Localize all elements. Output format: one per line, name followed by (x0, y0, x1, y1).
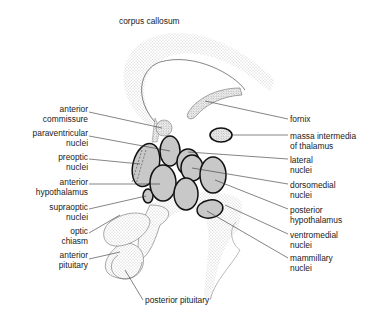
label-fornix: fornix (290, 114, 310, 124)
label-line: supraoptic (49, 202, 88, 212)
label-paraventricular-nuclei: paraventricular nuclei (33, 128, 88, 148)
label-preoptic-nuclei: preoptic nuclei (58, 152, 88, 172)
label-line: nuclei (290, 240, 338, 250)
label-line: chiasm (61, 236, 88, 246)
label-massa-intermedia: massa intermedia of thalamus (290, 131, 356, 151)
anterior-hypothalamus-shape (150, 165, 176, 201)
label-line: hypothalamus (36, 187, 88, 197)
label-line: nuclei (290, 263, 333, 273)
label-supraoptic-nuclei: supraoptic nuclei (49, 202, 88, 222)
label-mammillary-nuclei: mammillary nuclei (290, 253, 333, 273)
massa-intermedia-shape (210, 128, 232, 142)
label-line: commissure (43, 114, 88, 124)
label-posterior-pituitary: posterior pituitary (145, 295, 209, 305)
label-line: anterior (59, 250, 88, 260)
label-line: of thalamus (290, 141, 356, 151)
label-line: dorsomedial (290, 180, 336, 190)
label-line: anterior (36, 177, 88, 187)
label-ventromedial-nuclei: ventromedial nuclei (290, 230, 338, 250)
label-line: nuclei (290, 190, 336, 200)
label-line: hypothalamus (290, 215, 342, 225)
label-line: nuclei (58, 162, 88, 172)
label-line: preoptic (58, 152, 88, 162)
label-line: pituitary (59, 260, 88, 270)
label-line: paraventricular (33, 128, 88, 138)
label-line: posterior (290, 205, 342, 215)
label-corpus-callosum: corpus callosum (119, 16, 180, 26)
label-line: nuclei (49, 212, 88, 222)
label-line: anterior (43, 104, 88, 114)
label-line: optic (61, 226, 88, 236)
label-line: mammillary (290, 253, 333, 263)
label-line: nuclei (290, 165, 313, 175)
label-line: ventromedial (290, 230, 338, 240)
label-line: massa intermedia (290, 131, 356, 141)
ventromedial-nuclei-shape (174, 178, 198, 210)
anterior-pituitary-shape (105, 243, 143, 279)
label-line: lateral (290, 155, 313, 165)
fornix-shape (187, 88, 242, 119)
label-lateral-nuclei: lateral nuclei (290, 155, 313, 175)
label-line: nuclei (33, 138, 88, 148)
label-anterior-hypothalamus: anterior hypothalamus (36, 177, 88, 197)
label-posterior-hypothalamus: posterior hypothalamus (290, 205, 342, 225)
anterior-commissure-shape (156, 120, 172, 136)
posterior-hypothalamus-shape (200, 157, 226, 193)
label-anterior-pituitary: anterior pituitary (59, 250, 88, 270)
label-optic-chiasm: optic chiasm (61, 226, 88, 246)
label-anterior-commissure: anterior commissure (43, 104, 88, 124)
label-dorsomedial-nuclei: dorsomedial nuclei (290, 180, 336, 200)
